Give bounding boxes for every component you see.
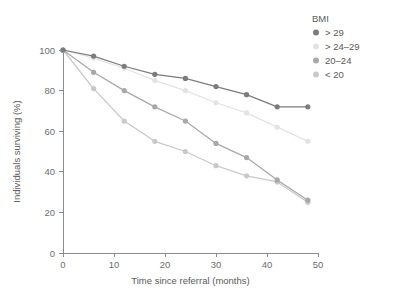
y-tick-label: 60	[44, 126, 55, 137]
data-point	[183, 76, 188, 81]
series-2	[60, 47, 310, 144]
plot-area: 02040608010001020304050Time since referr…	[11, 13, 360, 286]
y-tick-label: 40	[44, 166, 55, 177]
legend-label: < 20	[325, 69, 344, 80]
data-point	[152, 72, 157, 77]
data-point	[244, 173, 249, 178]
data-point	[244, 110, 249, 115]
y-tick-label: 100	[39, 45, 55, 56]
x-axis-title: Time since referral (months)	[131, 275, 249, 286]
x-tick-label: 40	[262, 259, 273, 270]
survival-line-chart: 02040608010001020304050Time since referr…	[0, 0, 394, 301]
data-point	[183, 88, 188, 93]
data-point	[275, 125, 280, 130]
series-4	[60, 47, 310, 204]
x-tick-label: 30	[211, 259, 222, 270]
data-point	[91, 53, 96, 58]
data-point	[122, 88, 127, 93]
x-tick-label: 20	[160, 259, 171, 270]
series-1	[60, 47, 310, 109]
data-point	[152, 104, 157, 109]
legend-title: BMI	[312, 13, 329, 24]
data-point	[275, 104, 280, 109]
x-tick-label: 50	[313, 259, 324, 270]
legend-label: > 24–29	[325, 41, 360, 52]
data-point	[152, 78, 157, 83]
legend-label: > 29	[325, 27, 344, 38]
y-tick-label: 0	[50, 248, 55, 259]
data-point	[305, 104, 310, 109]
data-point	[122, 64, 127, 69]
data-point	[213, 100, 218, 105]
legend-label: 20–24	[325, 55, 351, 66]
x-tick-label: 0	[60, 259, 65, 270]
y-axis-title: Individuals surviving (%)	[11, 100, 22, 202]
legend-marker[interactable]	[313, 44, 319, 50]
data-point	[244, 92, 249, 97]
y-tick-label: 20	[44, 207, 55, 218]
series-line	[63, 50, 308, 200]
x-tick-label: 10	[109, 259, 120, 270]
data-point	[275, 177, 280, 182]
data-point	[213, 84, 218, 89]
data-point	[213, 163, 218, 168]
data-point	[183, 118, 188, 123]
data-point	[305, 198, 310, 203]
chart-figure: 02040608010001020304050Time since referr…	[0, 0, 394, 301]
data-point	[183, 149, 188, 154]
data-point	[244, 155, 249, 160]
data-point	[213, 141, 218, 146]
legend-marker[interactable]	[313, 72, 319, 78]
series-line	[63, 50, 308, 202]
data-point	[60, 47, 65, 52]
legend-marker[interactable]	[313, 58, 319, 64]
data-point	[152, 139, 157, 144]
data-point	[91, 86, 96, 91]
y-tick-label: 80	[44, 85, 55, 96]
data-point	[122, 118, 127, 123]
data-point	[305, 139, 310, 144]
legend-marker[interactable]	[313, 30, 319, 36]
data-point	[91, 70, 96, 75]
